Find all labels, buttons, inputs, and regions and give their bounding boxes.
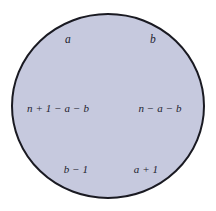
region-label-mid-left: n + 1 − a − b [27, 103, 89, 114]
diagram-canvas: a b n + 1 − a − b n − a − b b − 1 a + 1 [0, 0, 216, 211]
region-label-bottom-left: b − 1 [64, 164, 88, 175]
region-label-top-left: a [65, 34, 71, 46]
region-label-bottom-right: a + 1 [134, 164, 158, 175]
region-label-mid-right: n − a − b [138, 103, 181, 114]
region-label-top-right: b [150, 34, 156, 46]
